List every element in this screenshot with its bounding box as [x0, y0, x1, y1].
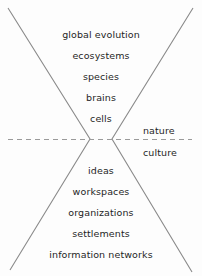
label-brains: brains — [86, 93, 116, 103]
label-ecosystems: ecosystems — [72, 51, 129, 61]
label-workspaces: workspaces — [73, 187, 130, 197]
label-cells: cells — [90, 114, 112, 124]
label-culture: culture — [143, 148, 177, 158]
label-nature: nature — [143, 126, 175, 136]
label-species: species — [83, 72, 119, 82]
label-settlements: settlements — [72, 229, 130, 239]
label-information-networks: information networks — [49, 250, 152, 260]
bowtie-diagram: global evolution ecosystems species brai… — [0, 0, 202, 276]
label-organizations: organizations — [68, 208, 133, 218]
label-ideas: ideas — [88, 166, 114, 176]
label-global-evolution: global evolution — [62, 30, 140, 40]
